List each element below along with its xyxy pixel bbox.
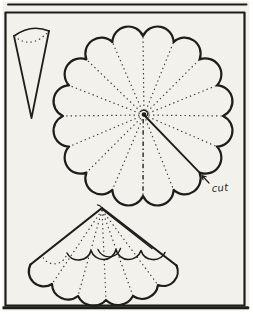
scan-edge-left (0, 0, 3, 315)
scan-edge-bottom (0, 311, 252, 315)
pattern-diagram: cut (0, 0, 252, 315)
scan-edge-right (250, 0, 253, 315)
scanned-page: cut (0, 0, 252, 315)
cut-label: cut (211, 182, 229, 194)
scan-edge-top (0, 0, 252, 2)
